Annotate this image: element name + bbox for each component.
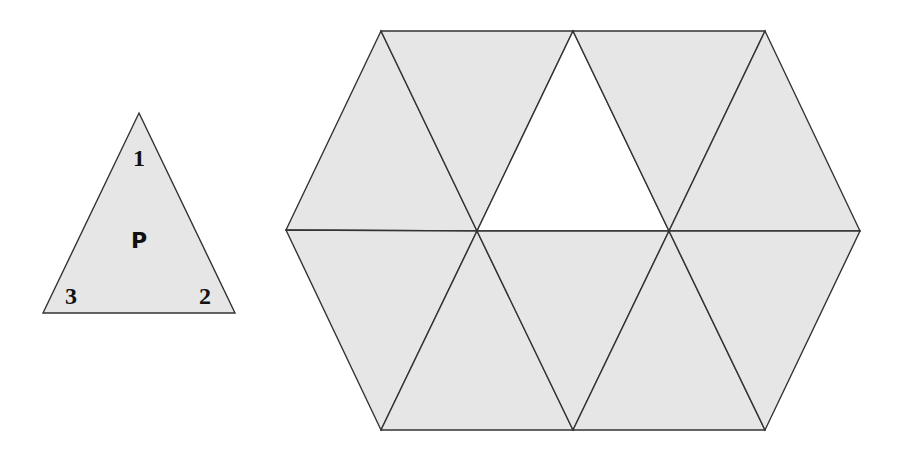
hexagon-grid	[286, 31, 860, 430]
corner-label-1: 1	[133, 145, 145, 171]
corner-label-2: 2	[199, 283, 211, 309]
diagram-canvas: 1 2 3 P	[0, 0, 906, 452]
corner-label-3: 3	[65, 283, 77, 309]
piece-label: P	[131, 228, 147, 253]
puzzle-piece-p: 1 2 3 P	[43, 113, 235, 313]
